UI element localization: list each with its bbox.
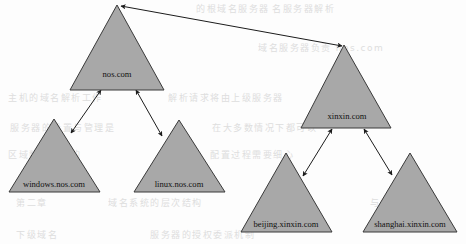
bleed-text-line: 的根域名服务器 <box>196 3 270 14</box>
bleed-text-line: 主机的域名解析工作 <box>8 92 103 103</box>
dns-hierarchy-diagram: 的根域名服务器名服务器解析域名服务器负责 nos.com主机的域名解析工作解析请… <box>0 0 466 244</box>
bleed-text-line: 第二章 <box>16 197 48 208</box>
zone-node-nos: nos.com <box>70 5 164 90</box>
bleed-text-line: 下级域名 <box>16 229 58 240</box>
delegation-arrow-shanghai-xinxin <box>364 129 392 175</box>
bleed-text-line: 域名服务器负责 nos.com <box>258 42 384 53</box>
bleed-text-line: 域名系统的层次结构 <box>108 197 203 208</box>
bleed-text-line: 解析请求将由上级服务器 <box>168 92 284 103</box>
zone-label-beijing-xinxin: beijing.xinxin.com <box>254 219 319 229</box>
bleed-text-line: 配置过程需要细心 <box>210 149 294 160</box>
zone-label-shanghai-xinxin: shanghai.xinxin.com <box>374 219 446 229</box>
bleed-text-line: 服务器的设置与管理是 <box>10 122 115 133</box>
zone-nodes: nos.comxinxin.comwindows.nos.comlinux.no… <box>9 5 457 232</box>
delegation-arrow-linux-nos <box>136 90 162 136</box>
bleed-text-line: 名服务器解析 <box>272 3 335 14</box>
zone-label-xinxin: xinxin.com <box>328 111 367 121</box>
zone-node-xinxin: xinxin.com <box>301 45 391 128</box>
bleed-text-line: 服务器的授权委派机制 <box>150 229 255 240</box>
delegation-arrow-beijing-xinxin <box>303 129 332 176</box>
zone-node-beijing-xinxin: beijing.xinxin.com <box>241 153 332 232</box>
zone-label-windows-nos: windows.nos.com <box>23 179 85 189</box>
zone-label-linux-nos: linux.nos.com <box>155 179 204 189</box>
zone-node-shanghai-xinxin: shanghai.xinxin.com <box>363 153 457 232</box>
diagram-canvas: 的根域名服务器名服务器解析域名服务器负责 nos.com主机的域名解析工作解析请… <box>0 0 466 244</box>
zone-label-nos: nos.com <box>103 69 132 79</box>
